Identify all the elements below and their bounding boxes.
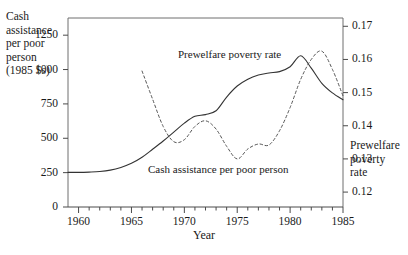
series-line-prewelfare-poverty-rate xyxy=(142,51,343,159)
plot-canvas xyxy=(0,0,408,255)
chart-figure: Cash assistance per poor person (1985 $s… xyxy=(0,0,408,255)
plot-frame xyxy=(68,18,343,207)
series-line-cash-assistance xyxy=(68,56,343,173)
